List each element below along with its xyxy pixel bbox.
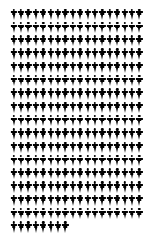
person-figure-legs-part: [138, 135, 140, 140]
person-figure-legs-part: [94, 108, 96, 113]
person-figure-legs-part: [42, 28, 44, 33]
person-figure-legs-part: [42, 201, 44, 206]
person-figure-legs-part: [50, 28, 52, 33]
person-figure-icon: [113, 74, 120, 87]
person-figure-legs-part: [101, 55, 103, 60]
person-figure-legs-part: [64, 214, 66, 219]
person-figure-legs-part: [101, 68, 103, 73]
person-figure-icon: [99, 61, 106, 74]
person-figure-legs-part: [94, 201, 96, 206]
person-figure-legs-part: [20, 174, 22, 179]
pictogram-row: [10, 194, 143, 207]
person-figure-icon: [84, 35, 91, 48]
person-figure-legs-part: [35, 161, 37, 166]
person-figure-legs-part: [27, 68, 29, 73]
person-figure-icon: [136, 101, 143, 114]
person-figure-legs-part: [94, 174, 96, 179]
person-figure-legs-part: [42, 41, 44, 46]
person-figure-icon: [99, 181, 106, 194]
person-figure-icon: [128, 8, 135, 21]
person-figure-icon: [128, 168, 135, 181]
person-figure-icon: [40, 35, 47, 48]
person-figure-legs-part: [35, 148, 37, 153]
person-figure-icon: [91, 128, 98, 141]
person-figure-legs-part: [116, 201, 118, 206]
person-figure-legs-part: [138, 41, 140, 46]
person-figure-legs-part: [79, 121, 81, 126]
person-figure-icon: [54, 74, 61, 87]
person-figure-legs-part: [101, 28, 103, 33]
person-figure-legs-part: [116, 108, 118, 113]
person-figure-icon: [40, 88, 47, 101]
person-figure-icon: [32, 48, 39, 61]
person-figure-icon: [91, 114, 98, 127]
person-figure-icon: [136, 8, 143, 21]
person-figure-icon: [113, 88, 120, 101]
person-figure-icon: [32, 21, 39, 34]
person-figure-icon: [136, 48, 143, 61]
person-figure-icon: [113, 141, 120, 154]
person-figure-legs-part: [72, 108, 74, 113]
person-figure-icon: [91, 141, 98, 154]
person-figure-icon: [113, 21, 120, 34]
person-figure-legs-part: [109, 95, 111, 100]
person-figure-icon: [17, 154, 24, 167]
person-figure-icon: [32, 141, 39, 154]
person-figure-icon: [47, 141, 54, 154]
person-figure-icon: [17, 48, 24, 61]
person-figure-icon: [47, 101, 54, 114]
person-figure-icon: [106, 194, 113, 207]
person-figure-legs-part: [87, 81, 89, 86]
person-figure-legs-part: [94, 28, 96, 33]
person-figure-icon: [40, 181, 47, 194]
person-figure-icon: [69, 141, 76, 154]
person-figure-icon: [47, 207, 54, 220]
person-figure-legs-part: [20, 55, 22, 60]
person-figure-icon: [10, 61, 17, 74]
person-figure-icon: [62, 181, 69, 194]
person-figure-icon: [106, 101, 113, 114]
person-figure-legs-part: [72, 81, 74, 86]
person-figure-icon: [136, 181, 143, 194]
person-figure-icon: [136, 168, 143, 181]
person-figure-legs-part: [79, 95, 81, 100]
person-figure-legs-part: [35, 28, 37, 33]
person-figure-icon: [17, 194, 24, 207]
person-figure-legs-part: [13, 188, 15, 193]
person-figure-icon: [25, 181, 32, 194]
person-figure-legs-part: [35, 95, 37, 100]
person-figure-legs-part: [101, 214, 103, 219]
person-figure-legs-part: [50, 148, 52, 153]
person-figure-legs-part: [101, 161, 103, 166]
person-figure-legs-part: [27, 41, 29, 46]
person-figure-legs-part: [124, 135, 126, 140]
person-figure-legs-part: [124, 161, 126, 166]
person-figure-icon: [91, 61, 98, 74]
person-figure-legs-part: [101, 174, 103, 179]
person-figure-icon: [106, 8, 113, 21]
person-figure-legs-part: [138, 81, 140, 86]
person-figure-icon: [121, 61, 128, 74]
person-figure-icon: [40, 141, 47, 154]
person-figure-legs-part: [50, 68, 52, 73]
person-figure-icon: [106, 35, 113, 48]
person-figure-legs-part: [27, 161, 29, 166]
person-figure-icon: [84, 88, 91, 101]
person-figure-icon: [121, 194, 128, 207]
person-figure-icon: [10, 101, 17, 114]
person-figure-legs-part: [35, 214, 37, 219]
person-figure-legs-part: [101, 135, 103, 140]
person-figure-legs-part: [87, 201, 89, 206]
person-figure-legs-part: [79, 148, 81, 153]
person-figure-icon: [62, 21, 69, 34]
person-figure-icon: [10, 21, 17, 34]
person-figure-legs-part: [27, 135, 29, 140]
person-figure-legs-part: [42, 108, 44, 113]
person-figure-icon: [113, 35, 120, 48]
person-figure-icon: [62, 154, 69, 167]
person-figure-icon: [99, 128, 106, 141]
person-figure-legs-part: [64, 161, 66, 166]
person-figure-legs-part: [101, 41, 103, 46]
person-figure-legs-part: [79, 108, 81, 113]
person-figure-legs-part: [13, 148, 15, 153]
